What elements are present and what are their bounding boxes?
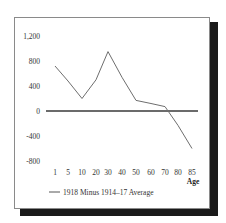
- y-axis-ticks: 1,2008004000-400-800: [23, 32, 40, 166]
- x-tick-label: 70: [161, 168, 169, 177]
- y-tick-label: 800: [29, 57, 41, 66]
- x-tick-label: 20: [92, 168, 100, 177]
- legend-label: 1918 Minus 1914–17 Average: [63, 188, 154, 197]
- y-tick-label: -400: [26, 132, 40, 141]
- x-tick-label: 40: [118, 168, 126, 177]
- x-tick-label: 1: [53, 168, 57, 177]
- y-tick-label: 400: [29, 82, 41, 91]
- x-tick-label: 60: [147, 168, 155, 177]
- x-tick-label: 5: [66, 168, 70, 177]
- series-line: [55, 52, 192, 149]
- x-axis-label: Age: [187, 177, 200, 186]
- x-tick-label: 85: [188, 168, 196, 177]
- x-tick-label: 30: [104, 168, 112, 177]
- x-tick-label: 50: [132, 168, 140, 177]
- x-axis-ticks: 15102030405060708085: [53, 168, 196, 177]
- y-tick-label: 0: [36, 107, 40, 116]
- y-tick-label: -800: [26, 157, 40, 166]
- y-tick-label: 1,200: [23, 32, 40, 41]
- line-chart: 1,2008004000-400-800 1510203040506070808…: [0, 0, 226, 223]
- x-tick-label: 10: [78, 168, 86, 177]
- x-tick-label: 80: [174, 168, 182, 177]
